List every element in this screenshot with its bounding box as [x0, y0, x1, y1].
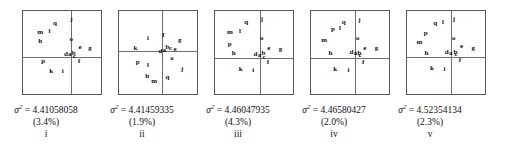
data-point-label: i [443, 66, 445, 73]
figure-scatter-panels: qjmlhoegdabcfpkiσ2 = 4.41058058(3.4%)iif… [0, 0, 525, 155]
data-point-label: a [449, 49, 453, 56]
data-point-label: k [49, 67, 53, 74]
variance-line-v: σ2 = 4.52354134 [374, 101, 486, 116]
data-point-label: c [263, 53, 266, 60]
plot-area-i: qjmlhoegdabcfpki [23, 11, 101, 94]
equals-sign: = [313, 105, 318, 115]
data-point-label: h [425, 49, 429, 56]
data-point-label: e [460, 42, 463, 49]
data-point-label: f [362, 58, 364, 65]
data-point-label: m [227, 28, 233, 35]
equals-sign: = [217, 105, 222, 115]
data-point-label: f [459, 56, 461, 63]
variance-value: 4.46580427 [321, 105, 366, 115]
variance-value: 4.46047935 [225, 105, 270, 115]
data-point-label: h [38, 37, 42, 44]
data-point-label: o [356, 35, 360, 42]
data-point-label: l [49, 27, 51, 34]
data-point-label: e [174, 46, 177, 53]
data-point-label: p [331, 26, 335, 33]
panel-group: qjmlhoegdabcfpkiσ2 = 4.41058058(3.4%)iif… [0, 0, 525, 155]
plot-area-ii: ifgkbcedaopljhqm [119, 11, 197, 94]
data-point-label: p [136, 58, 140, 65]
data-point-label: k [430, 65, 434, 72]
horizontal-axis-iv [311, 58, 389, 59]
data-point-label: i [347, 66, 349, 73]
horizontal-axis-i [23, 57, 101, 58]
sigma-exponent: 2 [19, 103, 23, 111]
data-point-label: a [162, 47, 166, 54]
sigma-exponent: 2 [211, 103, 215, 111]
data-point-label: h [329, 49, 333, 56]
data-point-label: g [279, 46, 283, 53]
scatter-panel-v: qljpomeghdabcfki [406, 10, 486, 95]
data-point-label: k [239, 66, 243, 73]
panel-caption-v: σ2 = 4.52354134(2.3%)v [374, 101, 486, 140]
data-point-label: e [78, 43, 81, 50]
data-point-label: q [433, 20, 437, 27]
data-point-label: k [133, 44, 137, 51]
data-point-label: p [41, 57, 45, 64]
data-point-label: q [165, 74, 169, 81]
data-point-label: f [162, 32, 164, 39]
data-point-label: e [363, 44, 366, 51]
data-point-label: j [181, 66, 183, 73]
data-point-label: f [78, 57, 80, 64]
data-point-label: m [417, 38, 423, 45]
data-point-label: o [260, 35, 264, 42]
data-point-label: q [53, 19, 57, 26]
data-point-label: l [239, 27, 241, 34]
equals-sign: = [121, 105, 126, 115]
plot-area-v: qljpomeghdabcfki [407, 11, 485, 94]
data-point-label: h [145, 72, 149, 79]
scatter-panel-iv: qjplomeghdabcfki [310, 10, 390, 95]
equals-sign: = [409, 105, 414, 115]
data-point-label: j [453, 16, 455, 23]
percent-line-v: (2.3%) [374, 116, 486, 128]
data-point-label: l [147, 61, 149, 68]
sigma-exponent: 2 [403, 103, 407, 111]
data-point-label: h [232, 50, 236, 57]
variance-value: 4.41058058 [33, 105, 78, 115]
variance-value: 4.41459335 [129, 105, 174, 115]
data-point-label: l [339, 24, 341, 31]
data-point-label: l [442, 18, 444, 25]
data-point-label: g [375, 45, 379, 52]
data-point-label: j [70, 16, 72, 23]
data-point-label: e [267, 44, 270, 51]
data-point-label: m [151, 77, 157, 84]
horizontal-axis-v [407, 57, 485, 58]
variance-value: 4.52354134 [417, 105, 462, 115]
data-point-label: o [452, 35, 456, 42]
sigma-exponent: 2 [115, 103, 119, 111]
scatter-panel-i: qjmlhoegdabcfpki [22, 10, 102, 95]
data-point-label: m [37, 28, 43, 35]
scatter-panel-ii: ifgkbcedaopljhqm [118, 10, 198, 95]
data-point-label: q [244, 18, 248, 25]
scatter-panel-iii: qjmlopeghdabcfki [214, 10, 294, 95]
plot-area-iv: qjplomeghdabcfki [311, 11, 389, 94]
data-point-label: i [252, 66, 254, 73]
data-point-label: c [169, 44, 172, 51]
data-point-label: i [147, 34, 149, 41]
data-point-label: q [342, 18, 346, 25]
data-point-label: c [73, 52, 76, 59]
data-point-label: o [70, 36, 74, 43]
data-point-label: c [455, 51, 458, 58]
data-point-label: j [261, 16, 263, 23]
equals-sign: = [25, 105, 30, 115]
horizontal-axis-iii [215, 58, 293, 59]
data-point-label: i [62, 67, 64, 74]
data-point-label: f [267, 59, 269, 66]
panel-index-v: v [374, 128, 486, 140]
data-point-label: p [424, 29, 428, 36]
data-point-label: g [178, 37, 182, 44]
data-point-label: o [170, 55, 174, 62]
data-point-label: g [472, 44, 476, 51]
data-point-label: m [321, 37, 327, 44]
sigma-exponent: 2 [307, 103, 311, 111]
data-point-label: k [333, 66, 337, 73]
plot-area-iii: qjmlopeghdabcfki [215, 11, 293, 94]
data-point-label: j [358, 17, 360, 24]
data-point-label: p [228, 41, 232, 48]
